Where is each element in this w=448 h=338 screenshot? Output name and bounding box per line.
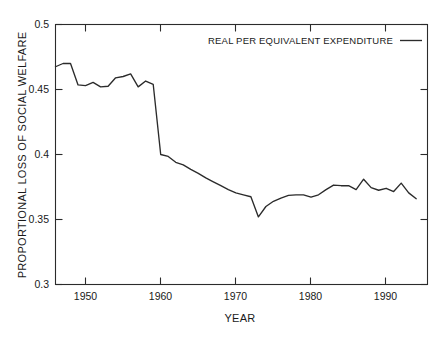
x-tick-label: 1960 (149, 290, 173, 302)
y-tick-labels: 0.3 0.35 0.4 0.45 0.5 (29, 18, 50, 290)
y-tick-label: 0.4 (34, 148, 49, 160)
y-tick-marks (56, 25, 428, 285)
chart-legend: REAL PER EQUIVALENT EXPENDITURE (208, 35, 422, 46)
y-tick-label: 0.45 (29, 83, 50, 95)
x-tick-labels: 1950 1960 1970 1980 1990 (74, 290, 398, 302)
x-tick-label: 1990 (374, 290, 398, 302)
x-tick-label: 1970 (224, 290, 248, 302)
chart-figure: 0.3 0.35 0.4 0.45 0.5 1950 1960 1970 198… (0, 0, 448, 338)
y-tick-label: 0.35 (29, 213, 50, 225)
x-tick-label: 1950 (74, 290, 98, 302)
y-tick-label: 0.3 (34, 278, 49, 290)
x-tick-label: 1980 (299, 290, 323, 302)
line-chart-canvas: 0.3 0.35 0.4 0.45 0.5 1950 1960 1970 198… (0, 0, 448, 338)
y-axis-title: PROPORTIONAL LOSS OF SOCIAL WELFARE (16, 32, 28, 279)
plot-frame (56, 25, 428, 285)
y-tick-label: 0.5 (34, 18, 49, 30)
data-series-line (56, 64, 417, 217)
legend-label: REAL PER EQUIVALENT EXPENDITURE (208, 35, 393, 46)
x-tick-marks (86, 25, 386, 285)
x-axis-title: YEAR (224, 312, 255, 324)
